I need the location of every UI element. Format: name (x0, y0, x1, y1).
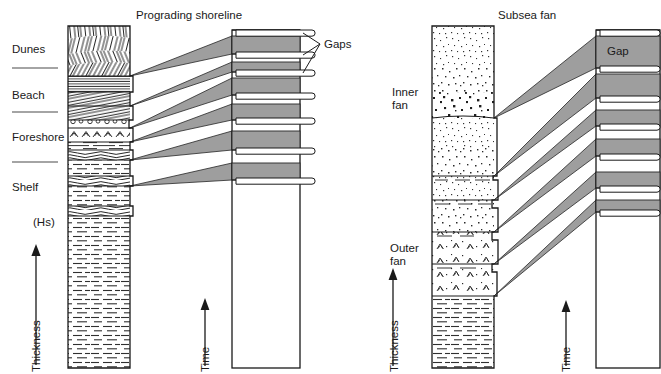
facies-label-inner-fan-line1: Inner (392, 86, 418, 99)
figure-canvas: Prograding shoreline Dunes Beach Foresho… (0, 0, 661, 374)
facies-label-hs: (Hs) (33, 216, 55, 229)
facies-label-dunes: Dunes (12, 43, 45, 56)
panel-prograding-shoreline (12, 26, 320, 368)
facies-label-shelf: Shelf (12, 181, 38, 194)
panel-title-subsea-fan: Subsea fan (498, 9, 556, 22)
facies-label-inner-fan-line2: fan (392, 99, 408, 112)
facies-label-outer-fan-line2: fan (390, 255, 406, 268)
panel-title-prograding-shoreline: Prograding shoreline (136, 9, 242, 22)
facies-label-beach: Beach (12, 89, 45, 102)
correlation-wedges-right (494, 36, 596, 296)
stratigraphy-diagram-svg (0, 0, 661, 374)
axis-label-time-right: Time (560, 347, 573, 372)
correlation-wedges-left (130, 36, 232, 186)
facies-dividers-left (12, 68, 58, 162)
panel-subsea-fan (389, 26, 661, 368)
facies-label-outer-fan-line1: Outer (390, 242, 419, 255)
axis-label-thickness-right: Thickness (388, 320, 401, 372)
time-column-subsea (596, 30, 660, 368)
annotation-gap: Gap (607, 45, 629, 58)
facies-label-foreshore: Foreshore (12, 131, 64, 144)
axis-label-time-left: Time (199, 347, 212, 372)
log-column-subsea (432, 26, 494, 368)
annotation-gaps: Gaps (324, 38, 352, 51)
axis-label-thickness-left: Thickness (30, 320, 43, 372)
time-column-prograding (232, 30, 315, 368)
log-column-prograding (68, 26, 130, 368)
